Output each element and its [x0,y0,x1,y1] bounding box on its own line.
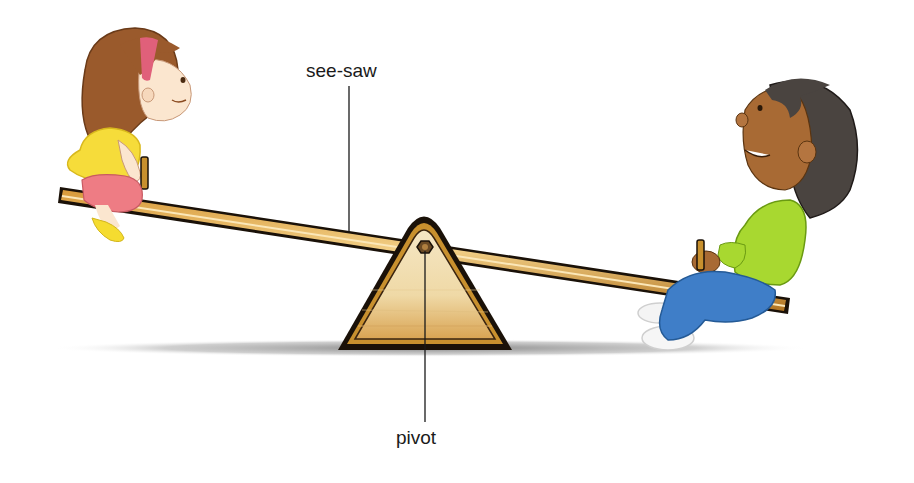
seesaw-label: see-saw [306,60,377,82]
boy-figure [660,79,858,340]
illustration [0,0,914,483]
seesaw-diagram: see-saw pivot [0,0,914,483]
pivot-label: pivot [396,427,436,449]
